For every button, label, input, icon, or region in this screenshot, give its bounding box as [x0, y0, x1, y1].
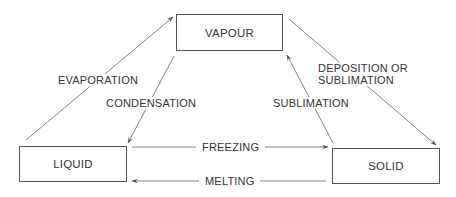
- deposition-label-line1: DEPOSITION OR: [316, 62, 410, 74]
- liquid-label: LIQUID: [53, 158, 93, 170]
- condensation-label: CONDENSATION: [104, 97, 198, 109]
- liquid-box: LIQUID: [19, 146, 127, 182]
- melting-label: MELTING: [199, 175, 260, 187]
- solid-box: SOLID: [332, 148, 440, 184]
- sublimation-label: SUBLIMATION: [271, 97, 351, 109]
- freezing-label: FREEZING: [196, 141, 265, 153]
- deposition-label-line2: SUBLIMATION: [316, 74, 396, 86]
- vapour-label: VAPOUR: [205, 27, 254, 39]
- vapour-box: VAPOUR: [176, 14, 283, 51]
- solid-label: SOLID: [368, 160, 404, 172]
- evaporation-label: EVAPORATION: [56, 74, 140, 86]
- phase-diagram: VAPOUR LIQUID SOLID EVAPORATION CONDENSA…: [0, 0, 456, 197]
